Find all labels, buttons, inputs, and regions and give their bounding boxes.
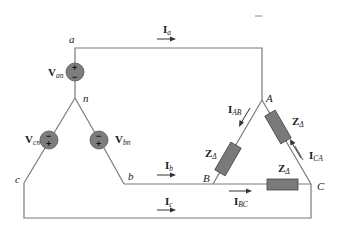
node-label-A: A [265,92,273,104]
node-label-a: a [69,33,75,45]
label-z-bc: ZΔ [278,162,290,176]
svg-text:−: − [72,72,77,82]
label-ica: ICA [309,149,323,163]
source-van: + − [66,63,84,82]
node-label-C: C [317,180,325,192]
node-label-c: c [15,173,20,185]
arrow-ib [157,173,176,178]
label-ib: Ib [165,159,173,173]
node-label-B: B [203,172,210,184]
impedance-z-bc [267,179,298,190]
label-ia: Ia [163,23,171,37]
label-z-ca: ZΔ [292,115,304,129]
source-vbn: − + [90,131,108,149]
label-vcn: Vcn [25,133,40,147]
node-label-b: b [128,170,134,182]
arrow-ic [157,208,176,213]
wire-vbn-to-b [104,148,124,184]
wire-n-to-vcn [54,98,75,133]
label-van: Van [48,66,64,80]
label-iab: IAB [228,103,242,117]
wire-vcn-to-c [24,148,45,183]
node-label-n: n [83,92,89,104]
source-vcn: − + [40,131,58,149]
label-vbn: Vbn [115,133,131,147]
arrow-ia [157,37,176,42]
label-ibc: IBC [234,195,249,209]
impedance-z-ca [265,110,291,144]
arrow-ibc [229,189,252,194]
svg-text:+: + [46,139,51,149]
svg-text:+: + [96,139,101,149]
label-ic: Ic [165,195,173,209]
line-a-to-A [75,48,262,100]
impedance-z-ab [215,142,241,176]
arrow-ica [290,139,301,158]
wye-delta-circuit-diagram: + − − + − + a n b c A B [0,0,338,234]
label-z-ab: ZΔ [205,147,217,161]
